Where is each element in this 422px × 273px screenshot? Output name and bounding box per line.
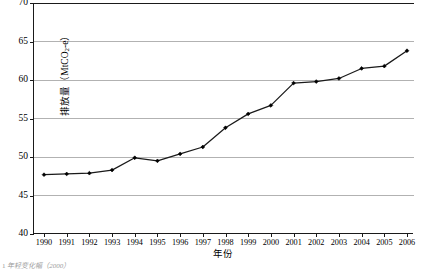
x-tick-label-2005: 2005 xyxy=(376,239,392,247)
x-tick-label-1991: 1991 xyxy=(59,239,75,247)
y-axis-title: 排放量（MtCO2-e） xyxy=(61,3,71,143)
x-tick-label-1993: 1993 xyxy=(104,239,120,247)
y-axis-title-main: 排放量（MtCO xyxy=(60,51,70,115)
data-point-2002 xyxy=(314,80,318,84)
caption-text: 年轻变化幅（2000） xyxy=(7,262,70,270)
y-axis-title-tail: -e） xyxy=(60,31,70,48)
data-point-2004 xyxy=(360,67,364,71)
data-point-1991 xyxy=(65,172,69,176)
data-point-1996 xyxy=(178,152,182,156)
series-line-chart xyxy=(34,3,414,234)
y-tick-label-40: 40 xyxy=(19,229,29,239)
x-tick-label-2000: 2000 xyxy=(263,239,279,247)
plot-area: 40455055606570 1990199119921993199419951… xyxy=(33,3,413,234)
x-tick-label-1998: 1998 xyxy=(217,239,233,247)
y-tick-label-45: 45 xyxy=(19,191,29,201)
x-tick-label-2006: 2006 xyxy=(399,239,415,247)
y-tick-label-55: 55 xyxy=(19,114,29,124)
x-tick-label-1990: 1990 xyxy=(36,239,52,247)
x-tick-label-1996: 1996 xyxy=(172,239,188,247)
caption-prefix: 1 xyxy=(2,262,6,270)
series-polyline xyxy=(44,51,407,175)
y-tick-label-60: 60 xyxy=(19,75,29,85)
x-tick-label-1997: 1997 xyxy=(195,239,211,247)
y-tick-label-50: 50 xyxy=(19,152,29,162)
data-point-1990 xyxy=(42,173,46,177)
y-tick-mark-40 xyxy=(30,234,34,235)
x-tick-label-1999: 1999 xyxy=(240,239,256,247)
data-point-2003 xyxy=(337,77,341,81)
x-axis-title: 年份 xyxy=(33,250,413,260)
x-tick-label-2002: 2002 xyxy=(308,239,324,247)
x-tick-label-1994: 1994 xyxy=(127,239,143,247)
x-tick-label-1992: 1992 xyxy=(81,239,97,247)
x-tick-label-2003: 2003 xyxy=(331,239,347,247)
x-tick-label-2004: 2004 xyxy=(353,239,369,247)
y-axis-title-subscript: 2 xyxy=(63,48,71,52)
data-point-1995 xyxy=(156,159,160,163)
x-tick-label-1995: 1995 xyxy=(149,239,165,247)
y-tick-label-65: 65 xyxy=(19,37,29,47)
data-point-1992 xyxy=(87,171,91,175)
series-markers xyxy=(42,49,409,177)
x-tick-label-2001: 2001 xyxy=(285,239,301,247)
y-tick-label-70: 70 xyxy=(19,0,29,8)
figure-caption: 1 年轻变化幅（2000） xyxy=(2,263,70,270)
chart-figure: 40455055606570 1990199119921993199419951… xyxy=(0,0,422,273)
